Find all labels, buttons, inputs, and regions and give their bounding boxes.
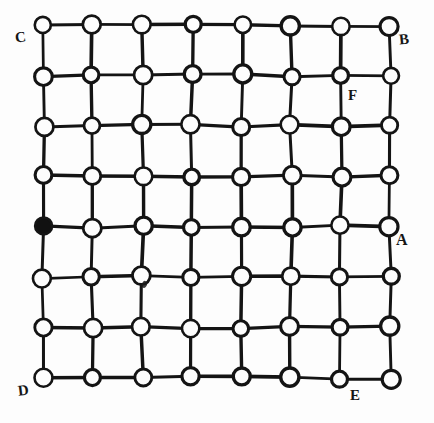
lattice-vertex <box>331 269 347 285</box>
lattice-vertex <box>184 66 201 83</box>
lattice-vertex <box>35 118 53 136</box>
lattice-vertex <box>284 69 300 85</box>
lattice-vertex <box>281 17 299 35</box>
lattice-vertex <box>35 17 51 33</box>
lattice-vertex <box>233 267 251 285</box>
lattice-vertex <box>281 116 299 134</box>
lattice-vertex <box>84 369 100 385</box>
lattice-vertex <box>235 16 251 32</box>
lattice-vertex <box>132 318 150 336</box>
lattice-vertex <box>233 119 250 136</box>
vertex-label-e: E <box>350 388 360 403</box>
lattice-figure: A B C D E F <box>0 0 434 423</box>
lattice-vertex <box>380 18 398 36</box>
lattice-vertex <box>182 368 199 385</box>
lattice-vertex <box>184 220 200 236</box>
lattice-vertex <box>182 320 199 337</box>
lattice-vertex <box>333 168 351 186</box>
lattice-vertex <box>233 368 250 385</box>
lattice-vertex <box>132 267 150 285</box>
lattice-vertex <box>33 270 51 288</box>
lattice-vertex <box>332 18 349 35</box>
lattice-vertex <box>383 68 399 84</box>
lattice-vertex <box>332 118 350 136</box>
lattice-vertex <box>183 269 199 285</box>
lattice-vertex <box>83 67 99 83</box>
lattice-vertex <box>331 217 348 234</box>
lattice-vertex <box>83 269 99 285</box>
vertex-label-a: A <box>396 232 408 248</box>
vertex-label-c: C <box>14 29 27 45</box>
lattice-vertex <box>233 218 251 236</box>
lattice-vertex <box>135 217 152 234</box>
lattice-vertex <box>382 370 400 388</box>
lattice-vertex <box>35 68 53 86</box>
lattice-vertex <box>333 68 349 84</box>
vertex-label-f: F <box>348 88 357 103</box>
lattice-vertex <box>84 319 102 337</box>
lattice-vertex <box>35 319 52 336</box>
lattice-vertex <box>135 167 153 185</box>
lattice-vertex <box>331 371 347 387</box>
lattice-vertex <box>233 168 250 185</box>
lattice-vertex <box>382 117 398 133</box>
lattice-vertex <box>35 167 52 184</box>
lattice-vertex-filled <box>35 217 52 234</box>
lattice-vertex <box>134 66 152 84</box>
lattice-vertex <box>284 219 301 236</box>
lattice-vertex <box>234 65 252 83</box>
lattice-vertex <box>383 268 399 284</box>
lattice-vertex <box>185 16 201 32</box>
lattice-vertex <box>83 16 101 34</box>
lattice-vertex <box>35 369 53 387</box>
lattice-vertex <box>133 115 151 133</box>
lattice-vertex <box>283 166 301 184</box>
vertex-label-d: D <box>17 382 30 398</box>
lattice-vertex <box>282 268 299 285</box>
lattice-vertex <box>281 368 299 386</box>
lattice-vertex <box>332 319 348 335</box>
lattice-vertex <box>281 318 299 336</box>
lattice-vertex <box>381 167 398 184</box>
lattice-vertex <box>233 321 249 337</box>
lattice-vertex <box>181 115 199 133</box>
lattice-vertex <box>135 369 152 386</box>
lattice-vertex <box>133 16 151 34</box>
lattice-graph <box>0 0 434 423</box>
lattice-vertex <box>381 317 399 335</box>
lattice-vertex <box>184 169 200 185</box>
lattice-vertex-layer <box>33 16 400 389</box>
lattice-vertex <box>84 168 101 185</box>
vertex-label-b: B <box>398 32 410 48</box>
lattice-vertex <box>83 219 101 237</box>
lattice-vertex <box>84 118 100 134</box>
